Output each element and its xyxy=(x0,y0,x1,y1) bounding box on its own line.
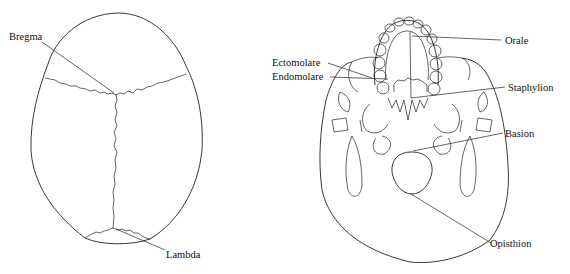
inferior-skull-view: Orale Ectomolare Endomolare Staphylion B… xyxy=(272,17,554,263)
foramen-magnum xyxy=(392,152,432,194)
dental-arcade xyxy=(373,17,442,95)
bregma-leader xyxy=(42,42,114,93)
label-bregma: Bregma xyxy=(9,31,43,42)
sagittal-suture xyxy=(113,94,117,228)
lambda-leader xyxy=(116,229,165,250)
label-staphylion: Staphylion xyxy=(508,82,554,93)
endomolare-leader xyxy=(330,77,388,79)
orale-leader xyxy=(412,36,501,40)
skull-landmarks-diagram: Bregma Lambda xyxy=(0,0,570,274)
opisthion-leader xyxy=(411,194,491,243)
label-ectomolare: Ectomolare xyxy=(272,57,321,68)
palate-midline xyxy=(410,32,411,98)
coronal-suture xyxy=(45,74,186,95)
label-endomolare: Endomolare xyxy=(272,71,324,82)
skull-outline-inferior xyxy=(320,58,509,263)
label-lambda: Lambda xyxy=(166,249,201,260)
staphylion-leader xyxy=(411,87,505,98)
superior-skull-view: Bregma Lambda xyxy=(9,13,202,260)
label-opisthion: Opisthion xyxy=(490,238,532,249)
label-basion: Basion xyxy=(505,128,535,139)
basion-leader xyxy=(413,133,503,151)
skull-outline-superior xyxy=(31,13,202,244)
label-orale: Orale xyxy=(505,35,529,46)
